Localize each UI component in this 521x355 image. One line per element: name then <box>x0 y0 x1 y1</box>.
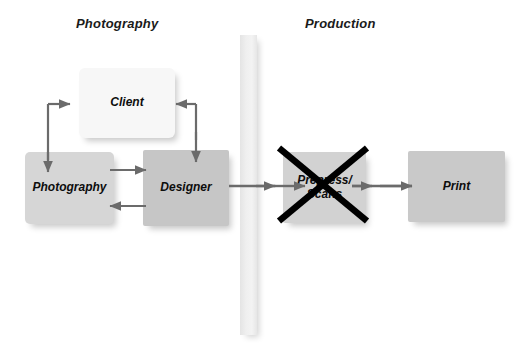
phase-divider-bar <box>240 35 257 335</box>
node-prepress-label: Prepress/ Scans <box>294 174 355 202</box>
node-prepress-label-line2: Scans <box>307 187 342 201</box>
node-photography[interactable]: Photography <box>25 152 114 224</box>
node-print[interactable]: Print <box>408 151 505 222</box>
section-title-production: Production <box>305 16 376 31</box>
node-client-label: Client <box>107 96 146 110</box>
node-prepress-label-line1: Prepress/ <box>297 173 352 187</box>
node-client[interactable]: Client <box>79 68 175 138</box>
node-photography-label: Photography <box>30 181 110 195</box>
node-designer[interactable]: Designer <box>143 150 229 226</box>
node-designer-label: Designer <box>157 181 214 195</box>
section-title-photography: Photography <box>76 16 158 31</box>
node-prepress[interactable]: Prepress/ Scans <box>283 152 366 223</box>
workflow-diagram: Photography Production Client Photograph… <box>0 0 521 355</box>
node-print-label: Print <box>440 180 473 194</box>
